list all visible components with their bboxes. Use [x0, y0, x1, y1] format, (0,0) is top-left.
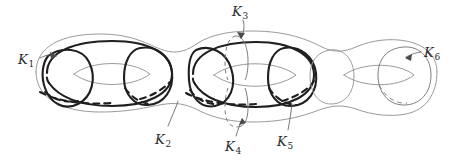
label-K3-base: K [232, 4, 242, 19]
surface-outline-bottom [36, 72, 437, 122]
label-K1: K1 [18, 53, 34, 69]
curve-K3-K4-meridian-ellipse [225, 36, 248, 127]
arrowhead-K3 [237, 32, 245, 39]
hole-2 [214, 64, 296, 87]
surface-diagram-figure: K1 K2 K3 K4 K5 K6 [0, 0, 457, 165]
label-K6-base: K [424, 45, 434, 60]
label-K4-base: K [225, 139, 235, 154]
label-K1-base: K [18, 52, 28, 67]
curve-handle1-right-front [124, 48, 172, 106]
label-K1-subscript: 1 [28, 59, 34, 69]
leader-K5 [288, 104, 292, 130]
surface-outline [36, 31, 437, 122]
label-K6: K6 [424, 46, 440, 62]
curve-K2-back-dashed [47, 73, 49, 83]
arrowhead-K6 [405, 54, 412, 61]
label-K4: K4 [225, 140, 241, 156]
label-K4-subscript: 4 [235, 146, 241, 156]
label-K5: K5 [277, 135, 293, 151]
label-K2: K2 [155, 133, 171, 149]
label-K6-subscript: 6 [434, 52, 440, 62]
curve-handle1-right-meridian [124, 48, 172, 106]
label-K5-base: K [277, 134, 287, 149]
hole-1 [74, 64, 150, 85]
label-K3: K3 [232, 5, 248, 21]
leader-K2 [168, 101, 178, 126]
label-K5-subscript: 5 [287, 141, 293, 151]
label-K2-subscript: 2 [165, 139, 171, 149]
curve-handle2-back-dashed [193, 74, 195, 84]
label-leader-lines [40, 20, 421, 136]
label-K2-base: K [155, 132, 165, 147]
label-K3-subscript: 3 [242, 11, 248, 21]
